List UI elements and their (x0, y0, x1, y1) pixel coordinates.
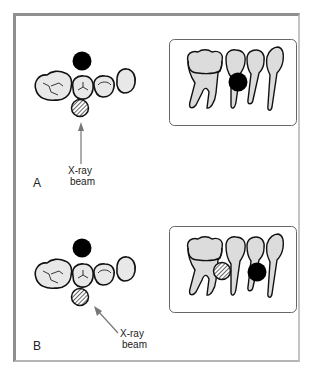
panel-a-occlusal-teeth (35, 69, 135, 100)
panel-b-beam-label-line2: beam (120, 339, 147, 350)
panel-a-beam-label: X-ray beam (68, 165, 95, 187)
panel-b-buccal-object (73, 239, 92, 258)
panel-b-label: B (33, 340, 41, 352)
panel-a-superimposed-object (229, 73, 248, 92)
panel-a-beam-label-line2: beam (68, 176, 95, 187)
panel-b-occlusal-teeth (35, 257, 135, 288)
panel-a-beam-label-line1: X-ray (68, 165, 95, 176)
panel-b-buccal-image (248, 263, 267, 282)
panel-b-beam-arrow-icon (94, 306, 118, 333)
panel-a-buccal-object (73, 52, 92, 71)
panel-a-beam-arrow-icon (78, 122, 84, 164)
dental-diagram (0, 0, 312, 376)
panel-a-lingual-object (72, 100, 89, 117)
panel-b-lingual-image (214, 263, 231, 280)
panel-b-beam-label-line1: X-ray (120, 328, 147, 339)
panel-a-label: A (33, 177, 41, 189)
panel-b-lingual-object (72, 289, 89, 306)
panel-b-beam-label: X-ray beam (120, 328, 147, 350)
